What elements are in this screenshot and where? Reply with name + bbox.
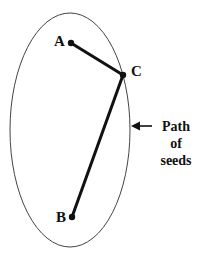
point-c-dot (120, 72, 126, 78)
point-b-dot (69, 214, 75, 220)
arrow-icon (131, 122, 152, 131)
seed-path-diagram: A C B Path of seeds (0, 0, 200, 258)
annotation-line-3: seeds (160, 153, 192, 168)
annotation-line-2: of (170, 136, 182, 151)
point-a-label: A (54, 33, 65, 49)
segment-a-c (71, 43, 123, 75)
point-b-label: B (56, 209, 66, 225)
point-c-label: C (131, 63, 142, 79)
segment-c-b (72, 75, 123, 217)
annotation-line-1: Path (162, 119, 190, 134)
point-a-dot (68, 40, 74, 46)
seed-path-ellipse (10, 13, 130, 247)
